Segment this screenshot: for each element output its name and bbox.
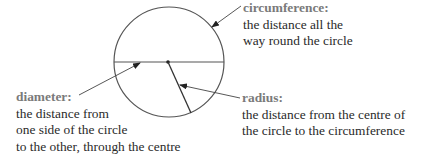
circumference-term: circumference:: [243, 0, 329, 15]
radius-desc-line: the circle to the circumference: [242, 123, 405, 140]
diameter-term: diameter:: [16, 89, 72, 104]
diameter-label: diameter: the distance from one side of …: [16, 89, 181, 155]
diameter-desc-line: one side of the circle: [16, 122, 181, 139]
radius-desc-line: the distance from the centre of: [242, 107, 405, 124]
circumference-desc-line: the distance all the: [243, 17, 353, 34]
radius-label: radius: the distance from the centre of …: [242, 90, 405, 140]
diameter-desc-line: to the other, through the centre: [16, 139, 181, 156]
diameter-desc-line: the distance from: [16, 106, 181, 123]
circumference-pointer-arrow: [212, 6, 241, 27]
circumference-desc-line: way round the circle: [243, 33, 353, 50]
radius-pointer-arrow: [180, 85, 240, 98]
radius-term: radius:: [242, 90, 283, 105]
circumference-label: circumference: the distance all the way …: [243, 0, 353, 50]
